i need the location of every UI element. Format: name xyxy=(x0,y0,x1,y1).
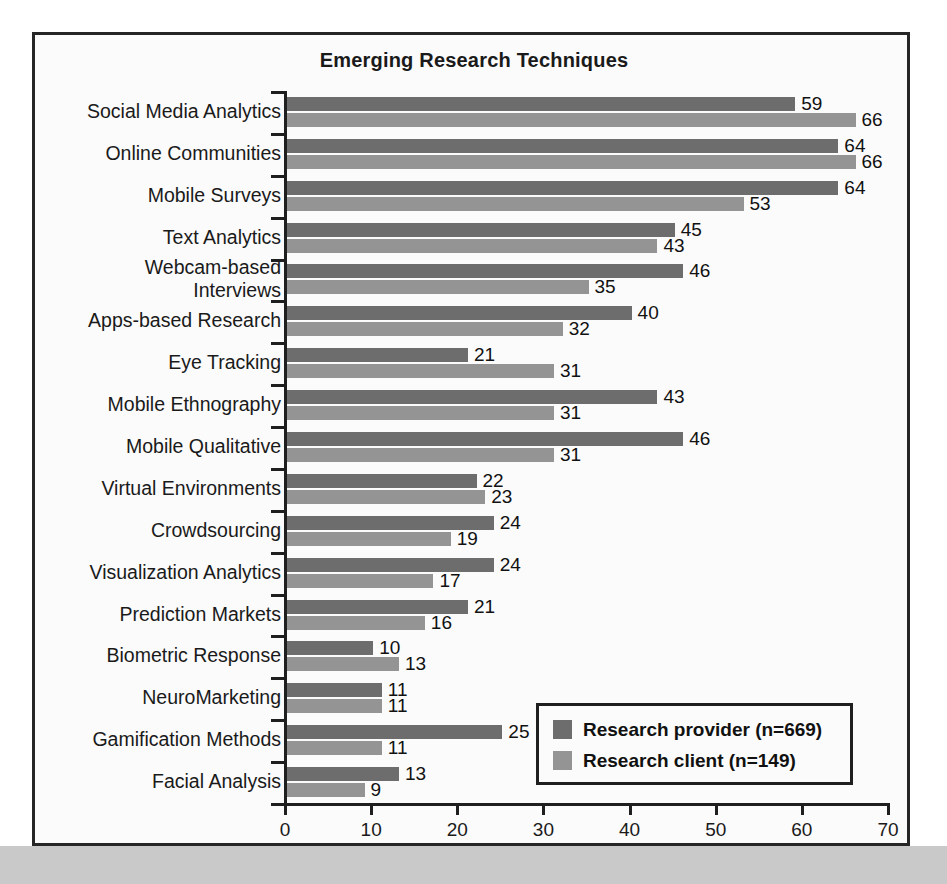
bar-provider xyxy=(287,223,675,237)
bar-provider xyxy=(287,264,683,278)
bar-value-label: 21 xyxy=(474,344,495,366)
y-axis-tick xyxy=(271,552,284,555)
x-axis-tick xyxy=(629,803,632,815)
category-label: Crowdsourcing xyxy=(41,519,281,542)
x-axis-tick xyxy=(887,803,890,815)
category-label: Biometric Response xyxy=(41,644,281,667)
bar-value-label: 11 xyxy=(388,737,408,759)
category-label: NeuroMarketing xyxy=(41,686,281,709)
category-label: Mobile Surveys xyxy=(41,184,281,207)
bar-client xyxy=(287,280,589,294)
bar-value-label: 17 xyxy=(439,570,460,592)
bar-client xyxy=(287,197,744,211)
bar-provider xyxy=(287,767,399,781)
bar-value-label: 43 xyxy=(663,235,684,257)
category-label: Prediction Markets xyxy=(41,603,281,626)
category-label: Visualization Analytics xyxy=(41,561,281,584)
x-axis-tick-label: 30 xyxy=(533,819,554,841)
x-axis-tick xyxy=(456,803,459,815)
y-axis-tick xyxy=(271,510,284,513)
bar-provider xyxy=(287,558,494,572)
bar-provider xyxy=(287,348,468,362)
y-axis-tick xyxy=(271,468,284,471)
bar-value-label: 31 xyxy=(560,360,581,382)
category-label: Webcam-based Interviews xyxy=(41,256,281,302)
bar-client xyxy=(287,699,382,713)
bar-value-label: 35 xyxy=(595,276,616,298)
legend-label-client: Research client (n=149) xyxy=(583,750,796,772)
x-axis-tick-label: 50 xyxy=(705,819,726,841)
y-axis-tick xyxy=(271,175,284,178)
category-label: Mobile Ethnography xyxy=(41,393,281,416)
category-label: Virtual Environments xyxy=(41,477,281,500)
bottom-decorative-band xyxy=(0,846,947,884)
bar-client xyxy=(287,616,425,630)
x-axis-tick-label: 70 xyxy=(877,819,898,841)
chart-legend: Research provider (n=669) Research clien… xyxy=(536,703,853,785)
legend-item-client: Research client (n=149) xyxy=(553,745,850,776)
bar-value-label: 13 xyxy=(405,763,426,785)
bar-client xyxy=(287,741,382,755)
category-label: Gamification Methods xyxy=(41,728,281,751)
category-label: Mobile Qualitative xyxy=(41,435,281,458)
bar-provider xyxy=(287,432,683,446)
y-axis-tick xyxy=(271,217,284,220)
legend-item-provider: Research provider (n=669) xyxy=(553,714,850,745)
chart-title: Emerging Research Techniques xyxy=(35,49,913,72)
bar-value-label: 24 xyxy=(500,512,521,534)
legend-swatch-provider-icon xyxy=(553,720,572,739)
bar-value-label: 16 xyxy=(431,612,452,634)
category-label: Social Media Analytics xyxy=(41,100,281,123)
bar-provider xyxy=(287,97,795,111)
x-axis-tick xyxy=(715,803,718,815)
bar-client xyxy=(287,364,554,378)
y-axis-tick xyxy=(271,761,284,764)
bar-value-label: 23 xyxy=(491,486,512,508)
y-axis-tick xyxy=(271,91,284,94)
bar-provider xyxy=(287,139,838,153)
y-axis-tick xyxy=(271,594,284,597)
x-axis-tick xyxy=(284,803,287,815)
bar-value-label: 31 xyxy=(560,444,581,466)
plot-area: 5966646664534543463540322131433146312223… xyxy=(284,91,887,803)
bar-value-label: 10 xyxy=(379,637,400,659)
bar-value-label: 13 xyxy=(405,653,426,675)
legend-swatch-client-icon xyxy=(553,751,572,770)
bar-value-label: 64 xyxy=(844,177,865,199)
category-axis-labels: Social Media AnalyticsOnline Communities… xyxy=(41,91,281,803)
bar-value-label: 21 xyxy=(474,596,495,618)
x-axis-tick xyxy=(542,803,545,815)
x-axis-tick-label: 20 xyxy=(447,819,468,841)
x-axis-tick-label: 60 xyxy=(791,819,812,841)
x-axis-tick-label: 40 xyxy=(619,819,640,841)
category-label: Facial Analysis xyxy=(41,770,281,793)
bar-value-label: 40 xyxy=(638,302,659,324)
y-axis-tick xyxy=(271,677,284,680)
bar-value-label: 66 xyxy=(862,151,883,173)
bar-value-label: 9 xyxy=(371,779,382,801)
bar-client xyxy=(287,532,451,546)
bar-value-label: 43 xyxy=(663,386,684,408)
bar-value-label: 53 xyxy=(750,193,771,215)
y-axis-tick xyxy=(271,133,284,136)
y-axis-tick xyxy=(271,342,284,345)
y-axis-tick xyxy=(271,384,284,387)
bar-value-label: 32 xyxy=(569,318,590,340)
bar-provider xyxy=(287,641,373,655)
bar-value-label: 46 xyxy=(689,428,710,450)
bar-provider xyxy=(287,390,657,404)
bar-client xyxy=(287,574,433,588)
bar-value-label: 59 xyxy=(801,93,822,115)
bar-provider xyxy=(287,683,382,697)
bar-client xyxy=(287,657,399,671)
bar-client xyxy=(287,783,365,797)
bar-value-label: 24 xyxy=(500,554,521,576)
y-axis-tick xyxy=(271,635,284,638)
y-axis-tick xyxy=(271,300,284,303)
bar-client xyxy=(287,490,485,504)
bar-value-label: 25 xyxy=(508,721,529,743)
bar-client xyxy=(287,406,554,420)
chart-figure-frame: Emerging Research Techniques Social Medi… xyxy=(32,32,910,846)
x-axis-tick-label: 0 xyxy=(280,819,291,841)
bar-value-label: 46 xyxy=(689,260,710,282)
